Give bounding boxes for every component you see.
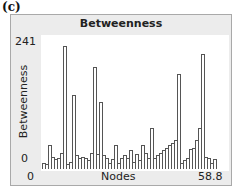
bar: [201, 54, 205, 169]
bar: [213, 159, 217, 169]
y-tick-min: 0: [21, 152, 28, 165]
x-tick-min: 0: [27, 170, 34, 183]
plot-area: [41, 35, 229, 171]
chart-title: Betweenness: [11, 17, 231, 30]
bar: [177, 74, 181, 169]
y-axis-label: Betweenness: [17, 62, 30, 142]
x-axis-label: Nodes: [101, 170, 135, 183]
bar-series: [41, 45, 229, 169]
chart-frame: Betweenness 241 Betweenness 0 0 Nodes 58…: [10, 14, 232, 186]
y-tick-max: 241: [15, 35, 36, 48]
x-tick-max: 58.8: [198, 170, 223, 183]
bar: [63, 46, 67, 169]
panel-label: (c): [2, 0, 21, 14]
